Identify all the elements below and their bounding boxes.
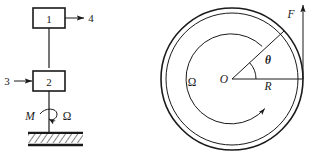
torque-label: M	[24, 110, 36, 122]
radius-label: R	[263, 80, 271, 92]
figure-canvas: 1 2 4 3 M Ω O R θ	[0, 0, 313, 160]
angular-speed-label-right: Ω	[188, 76, 197, 88]
block-1-label: 1	[46, 13, 52, 25]
diagram-svg: 1 2 4 3 M Ω O R θ	[0, 0, 313, 160]
angular-speed-label-left: Ω	[63, 110, 72, 122]
center-label: O	[220, 73, 229, 85]
block-2-label: 2	[46, 76, 52, 88]
theta-label: θ	[265, 54, 271, 66]
arrow-3-label: 3	[4, 75, 10, 87]
hatched-ground	[28, 133, 83, 145]
angled-radius-line	[232, 31, 284, 79]
force-label: F	[286, 8, 295, 20]
right-disc-diagram: O R θ F Ω	[161, 5, 303, 150]
arrow-4-label: 4	[88, 12, 94, 24]
left-block-diagram: 1 2 4 3 M Ω	[4, 8, 94, 145]
theta-arc	[250, 63, 256, 79]
